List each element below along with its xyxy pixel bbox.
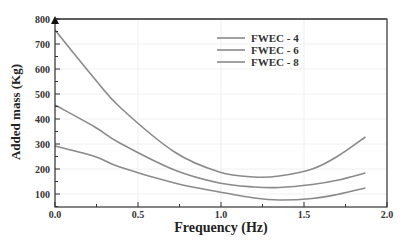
grid-lines: [55, 19, 387, 207]
svg-text:600: 600: [35, 64, 50, 75]
legend-label: FWEC - 4: [251, 32, 299, 44]
legend-label: FWEC - 6: [251, 44, 299, 56]
series-line-fwec-6: [55, 105, 365, 188]
series-line-fwec-8: [55, 146, 365, 200]
x-axis-title: Frequency (Hz): [174, 220, 268, 236]
svg-text:1.5: 1.5: [298, 209, 311, 220]
svg-text:300: 300: [35, 139, 50, 150]
svg-text:800: 800: [35, 14, 50, 25]
legend-label: FWEC - 8: [251, 56, 299, 68]
svg-text:0.0: 0.0: [49, 209, 62, 220]
svg-text:400: 400: [35, 114, 50, 125]
svg-text:100: 100: [35, 189, 50, 200]
svg-text:200: 200: [35, 164, 50, 175]
svg-text:0.5: 0.5: [132, 209, 145, 220]
svg-text:500: 500: [35, 89, 50, 100]
svg-text:2.0: 2.0: [381, 209, 394, 220]
added-mass-chart: 1002003004005006007008000.00.51.01.52.0 …: [0, 0, 407, 243]
series-line-fwec-4: [55, 30, 365, 177]
axes: [51, 16, 387, 207]
y-axis-title: Added mass (Kg): [8, 64, 23, 160]
svg-text:700: 700: [35, 39, 50, 50]
svg-text:1.0: 1.0: [215, 209, 228, 220]
data-series: [55, 30, 365, 200]
legend: FWEC - 4FWEC - 6FWEC - 8: [217, 32, 299, 68]
